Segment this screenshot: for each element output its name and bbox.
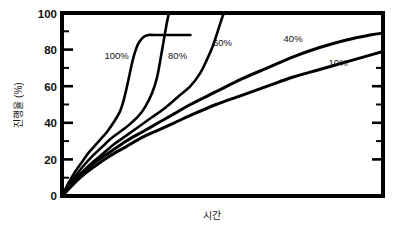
y-tick-labels: 100 80 60 40 20 0 (38, 8, 57, 203)
y-tick-label-20: 20 (44, 154, 57, 166)
y-axis-title: 진행율 (%) (13, 82, 24, 127)
series-label-60-percent: 60% (213, 37, 233, 48)
y-tick-label-60: 60 (44, 81, 57, 93)
series-label-100-percent: 100% (104, 50, 129, 61)
series-label-40-percent: 40% (284, 33, 304, 44)
y-tick-label-40: 40 (44, 117, 57, 129)
series-label-80-percent: 80% (168, 50, 188, 61)
y-tick-label-80: 80 (44, 44, 57, 56)
y-tick-label-0: 0 (51, 190, 57, 202)
progress-rate-line-chart: 100 80 60 40 20 0 진행율 (%) 시간 100% 80% 60… (0, 0, 405, 235)
curve-10-percent (62, 51, 383, 196)
chart-figure: 100 80 60 40 20 0 진행율 (%) 시간 100% 80% 60… (0, 0, 405, 235)
y-tick-label-100: 100 (38, 8, 57, 20)
series-label-10-percent: 10% (329, 57, 349, 68)
x-axis-title: 시간 (203, 210, 221, 221)
